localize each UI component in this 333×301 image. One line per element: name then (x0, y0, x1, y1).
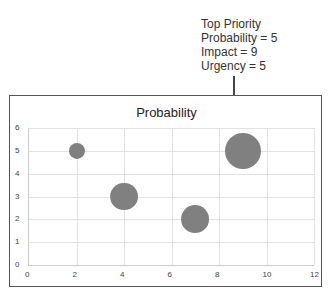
x-tick-label: 4 (120, 270, 124, 279)
x-tick-label: 6 (168, 270, 172, 279)
x-tick-label: 10 (263, 270, 272, 279)
chart-title: Probability (0, 105, 333, 120)
plot-area (28, 128, 314, 266)
x-tick-label: 12 (310, 270, 319, 279)
y-tick-label: 5 (15, 146, 19, 155)
annotation-line: Urgency = 5 (201, 59, 277, 73)
grid-line-horizontal (29, 128, 314, 129)
y-tick-label: 1 (15, 237, 19, 246)
y-tick-label: 4 (15, 169, 19, 178)
x-tick-label: 2 (73, 270, 77, 279)
y-tick-label: 0 (15, 260, 19, 269)
grid-line-horizontal (29, 219, 314, 220)
y-tick-label: 3 (15, 192, 19, 201)
top-priority-annotation: Top Priority Probability = 5 Impact = 9 … (201, 17, 277, 73)
x-tick-label: 0 (25, 270, 29, 279)
annotation-line: Top Priority (201, 17, 277, 31)
annotation-line: Probability = 5 (201, 31, 277, 45)
y-tick-label: 2 (15, 214, 19, 223)
x-tick-label: 8 (215, 270, 219, 279)
bubble-data-point (225, 133, 261, 169)
bubble-data-point (110, 183, 138, 211)
bubble-data-point (68, 143, 84, 159)
annotation-line: Impact = 9 (201, 45, 277, 59)
bubble-data-point (181, 205, 209, 233)
grid-line-horizontal (29, 174, 314, 175)
y-tick-label: 6 (15, 123, 19, 132)
grid-line-horizontal (29, 197, 314, 198)
grid-line-vertical (314, 128, 315, 265)
grid-line-horizontal (29, 242, 314, 243)
